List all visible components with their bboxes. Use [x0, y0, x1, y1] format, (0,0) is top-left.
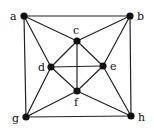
- edge-b-e: [103, 16, 130, 66]
- edge-d-f: [51, 67, 77, 91]
- edge-g-f: [26, 91, 77, 117]
- edge-g-d: [26, 67, 51, 117]
- node-e: [99, 62, 106, 69]
- edge-d-e: [51, 66, 103, 67]
- node-label-a: a: [10, 10, 17, 23]
- edge-a-g: [24, 16, 26, 117]
- edge-h-e: [103, 66, 131, 116]
- edge-a-d: [24, 16, 51, 67]
- edge-g-h: [26, 116, 131, 117]
- node-label-d: d: [38, 61, 45, 74]
- node-c: [73, 37, 80, 44]
- edge-b-c: [77, 16, 130, 41]
- node-h: [127, 112, 134, 119]
- node-f: [73, 87, 80, 94]
- edge-c-e: [77, 41, 103, 66]
- node-label-g: g: [12, 112, 19, 125]
- edge-e-f: [77, 66, 103, 91]
- edge-c-d: [51, 41, 77, 67]
- node-label-c: c: [73, 24, 79, 37]
- edge-h-f: [77, 91, 131, 116]
- node-label-e: e: [110, 60, 117, 73]
- node-label-h: h: [138, 111, 145, 124]
- node-label-f: f: [74, 96, 79, 109]
- node-g: [22, 113, 29, 120]
- node-b: [126, 12, 133, 19]
- graph-diagram: abcdefgh: [0, 0, 154, 132]
- edge-a-c: [24, 16, 77, 41]
- edge-b-h: [130, 16, 131, 116]
- node-label-b: b: [137, 10, 144, 23]
- node-a: [20, 12, 27, 19]
- node-d: [47, 63, 54, 70]
